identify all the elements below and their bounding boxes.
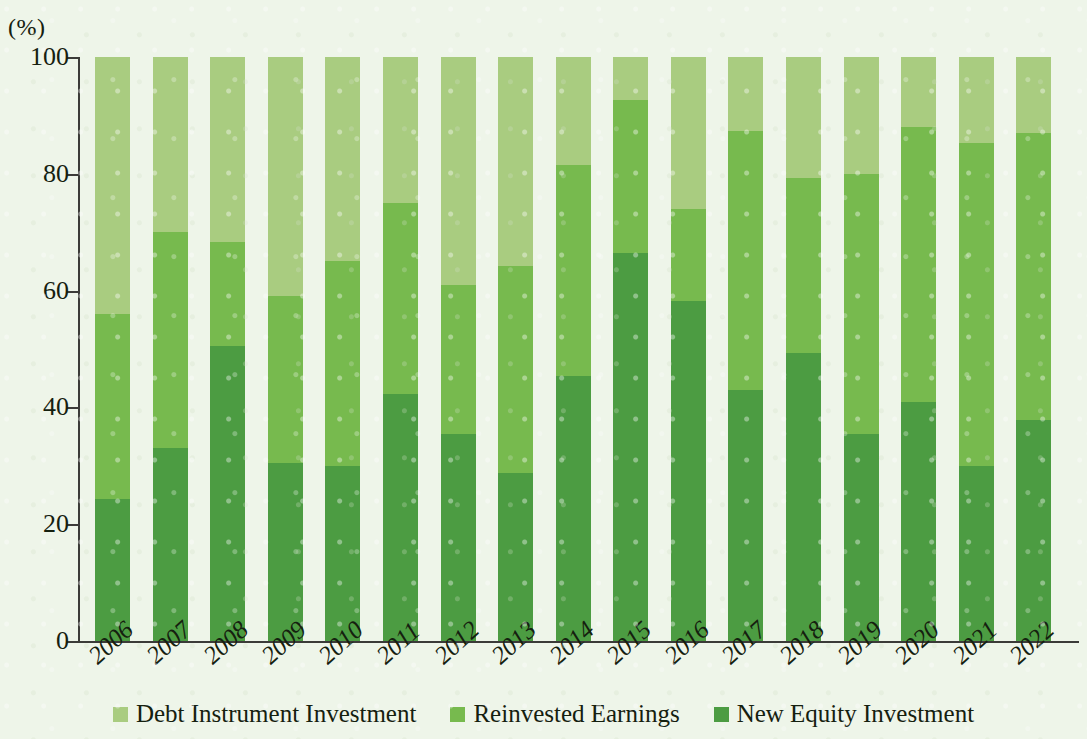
bar-segment[interactable] xyxy=(613,100,648,253)
bar-segment[interactable] xyxy=(844,57,879,174)
bar-segment[interactable] xyxy=(153,57,188,232)
bar-group[interactable] xyxy=(441,57,476,641)
bar-segment[interactable] xyxy=(268,296,303,462)
bar-segment[interactable] xyxy=(728,131,763,390)
bar-segment[interactable] xyxy=(844,174,879,434)
bar-stack xyxy=(844,57,879,641)
y-axis-tick-label: 20 xyxy=(43,509,69,539)
bar-segment[interactable] xyxy=(95,57,130,314)
bar-segment[interactable] xyxy=(153,448,188,641)
bar-segment[interactable] xyxy=(1016,133,1051,420)
bar-segment[interactable] xyxy=(728,390,763,641)
bar-segment[interactable] xyxy=(325,57,360,261)
bar-segment[interactable] xyxy=(728,57,763,131)
bar-stack xyxy=(498,57,533,641)
bar-group[interactable] xyxy=(728,57,763,641)
bar-segment[interactable] xyxy=(1016,57,1051,133)
bar-segment[interactable] xyxy=(383,394,418,641)
legend-swatch-icon xyxy=(714,707,729,722)
bar-segment[interactable] xyxy=(959,57,994,143)
bar-segment[interactable] xyxy=(268,57,303,296)
stacked-bar-chart: (%) 020406080100 20062007200820092010201… xyxy=(0,0,1087,739)
bar-segment[interactable] xyxy=(786,353,821,641)
bar-segment[interactable] xyxy=(556,376,591,641)
bar-group[interactable] xyxy=(556,57,591,641)
bars-layer xyxy=(78,57,1079,641)
bar-segment[interactable] xyxy=(210,242,245,346)
bar-stack xyxy=(1016,57,1051,641)
y-axis-tick-label: 0 xyxy=(56,626,69,656)
bar-group[interactable] xyxy=(671,57,706,641)
bar-segment[interactable] xyxy=(556,165,591,376)
bar-segment[interactable] xyxy=(786,178,821,352)
legend-label: New Equity Investment xyxy=(737,700,974,728)
bar-segment[interactable] xyxy=(959,143,994,465)
bar-group[interactable] xyxy=(95,57,130,641)
bar-segment[interactable] xyxy=(671,301,706,641)
bar-stack xyxy=(153,57,188,641)
bar-segment[interactable] xyxy=(786,57,821,178)
bar-segment[interactable] xyxy=(671,209,706,301)
bar-stack xyxy=(210,57,245,641)
bar-stack xyxy=(786,57,821,641)
legend-swatch-icon xyxy=(450,707,465,722)
bar-segment[interactable] xyxy=(153,232,188,448)
bar-group[interactable] xyxy=(844,57,879,641)
bar-segment[interactable] xyxy=(671,57,706,209)
bar-segment[interactable] xyxy=(325,261,360,465)
bar-group[interactable] xyxy=(901,57,936,641)
bar-stack xyxy=(325,57,360,641)
bar-group[interactable] xyxy=(1016,57,1051,641)
bar-segment[interactable] xyxy=(325,466,360,641)
bar-segment[interactable] xyxy=(498,266,533,474)
bar-group[interactable] xyxy=(153,57,188,641)
bar-segment[interactable] xyxy=(613,57,648,100)
bar-segment[interactable] xyxy=(383,203,418,394)
bar-stack xyxy=(728,57,763,641)
legend-swatch-icon xyxy=(113,707,128,722)
bar-segment[interactable] xyxy=(844,434,879,641)
bar-segment[interactable] xyxy=(210,346,245,641)
bar-segment[interactable] xyxy=(901,127,936,401)
bar-segment[interactable] xyxy=(210,57,245,242)
legend-item[interactable]: Reinvested Earnings xyxy=(450,700,679,728)
bar-segment[interactable] xyxy=(441,57,476,285)
bar-group[interactable] xyxy=(268,57,303,641)
chart-legend: Debt Instrument InvestmentReinvested Ear… xyxy=(0,700,1087,728)
bar-segment[interactable] xyxy=(383,57,418,203)
bar-stack xyxy=(95,57,130,641)
bar-group[interactable] xyxy=(383,57,418,641)
bar-segment[interactable] xyxy=(268,463,303,641)
bar-group[interactable] xyxy=(498,57,533,641)
bar-segment[interactable] xyxy=(556,57,591,165)
y-axis-tick-label: 60 xyxy=(43,276,69,306)
legend-item[interactable]: New Equity Investment xyxy=(714,700,974,728)
bar-segment[interactable] xyxy=(959,466,994,641)
bar-segment[interactable] xyxy=(1016,420,1051,641)
bar-stack xyxy=(556,57,591,641)
bar-group[interactable] xyxy=(613,57,648,641)
bar-segment[interactable] xyxy=(441,285,476,434)
bar-segment[interactable] xyxy=(901,57,936,127)
legend-item[interactable]: Debt Instrument Investment xyxy=(113,700,417,728)
bar-segment[interactable] xyxy=(498,473,533,641)
bar-group[interactable] xyxy=(210,57,245,641)
legend-label: Reinvested Earnings xyxy=(473,700,679,728)
plot-area: 020406080100 xyxy=(78,57,1079,641)
bar-stack xyxy=(901,57,936,641)
bar-segment[interactable] xyxy=(613,253,648,641)
y-axis-tick-label: 40 xyxy=(43,392,69,422)
bar-segment[interactable] xyxy=(498,57,533,265)
y-axis-unit-label: (%) xyxy=(8,14,45,41)
bar-segment[interactable] xyxy=(441,434,476,641)
y-axis-tick-label: 100 xyxy=(30,42,69,72)
bar-segment[interactable] xyxy=(901,402,936,641)
bar-group[interactable] xyxy=(325,57,360,641)
bar-stack xyxy=(671,57,706,641)
bar-stack xyxy=(613,57,648,641)
x-axis-labels: 2006200720082009201020112012201320142015… xyxy=(78,645,1079,701)
bar-group[interactable] xyxy=(959,57,994,641)
bar-segment[interactable] xyxy=(95,314,130,499)
legend-label: Debt Instrument Investment xyxy=(136,700,417,728)
bar-group[interactable] xyxy=(786,57,821,641)
